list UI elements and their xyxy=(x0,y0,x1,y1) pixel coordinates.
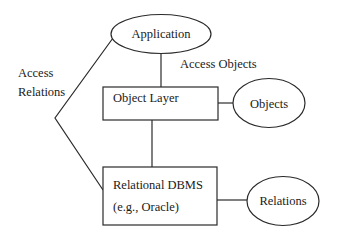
relations-label: Relations xyxy=(259,194,306,208)
rdbms-label-line1: Relational DBMS xyxy=(113,178,203,192)
architecture-diagram: Application Access Objects Access Relati… xyxy=(0,0,337,240)
rdbms-box xyxy=(103,167,217,225)
object-layer-label: Object Layer xyxy=(113,91,179,105)
objects-label: Objects xyxy=(250,97,288,111)
node-application: Application xyxy=(111,15,211,54)
node-relations: Relations xyxy=(247,177,319,226)
application-label: Application xyxy=(131,27,191,41)
access-objects-label: Access Objects xyxy=(180,57,257,71)
node-object-layer: Object Layer xyxy=(103,87,218,120)
access-relations-label-line2: Relations xyxy=(18,85,65,99)
rdbms-label-line2: (e.g., Oracle) xyxy=(113,200,179,214)
node-objects: Objects xyxy=(233,79,305,128)
node-rdbms: Relational DBMS (e.g., Oracle) xyxy=(103,167,217,225)
access-relations-label-line1: Access xyxy=(18,66,54,80)
